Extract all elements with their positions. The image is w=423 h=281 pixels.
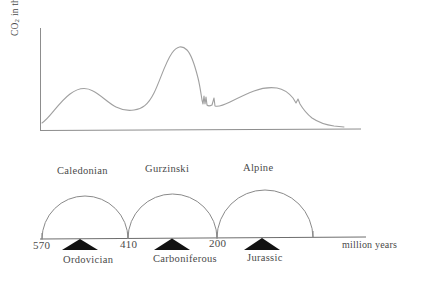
- orogeny-label-caledonian: Caledonian: [57, 166, 108, 177]
- timeline-tick-label-570: 570: [33, 240, 50, 251]
- orogeny-arch-alpine: [217, 190, 313, 238]
- orogeny-arch-caledonian: [42, 196, 128, 239]
- period-label-ordovician: Ordovician: [63, 255, 113, 266]
- co2-curve-path: [42, 47, 344, 127]
- orogeny-label-gurzinski: Gurzinski: [145, 164, 189, 175]
- co2-x-axis-line: [40, 129, 361, 131]
- timeline-axis-line: [40, 237, 366, 239]
- period-label-carboniferous: Carboniferous: [153, 254, 217, 265]
- geological-co2-figure: CO2 in the atmosphere: [0, 0, 423, 281]
- period-marker-triangle-ordovician: [62, 239, 98, 250]
- orogeny-arch-gurzinski: [128, 194, 217, 239]
- orogeny-label-alpine: Alpine: [243, 163, 273, 174]
- period-label-jurassic: Jurassic: [247, 253, 283, 264]
- timeline-tick-label-410: 410: [120, 239, 137, 250]
- timeline-units-label: million years: [342, 240, 397, 250]
- period-marker-triangle-jurassic: [244, 238, 280, 250]
- co2-chart-group: [40, 28, 361, 131]
- timeline-tick-label-200: 200: [209, 238, 226, 249]
- period-marker-triangle-carboniferous: [154, 239, 190, 251]
- timeline-group: [40, 190, 366, 250]
